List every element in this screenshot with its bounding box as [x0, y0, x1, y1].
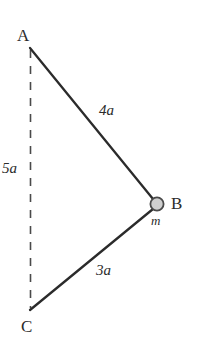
diagram-canvas	[0, 0, 197, 346]
length-label-ab: 4a	[99, 103, 114, 118]
length-label-cb: 3a	[96, 263, 111, 278]
vertex-label-c: C	[21, 318, 32, 335]
rod-line-cb	[30, 209, 153, 310]
vertex-label-b: B	[171, 195, 182, 212]
vertex-label-a: A	[17, 27, 29, 44]
physics-diagram-figure: A B C 4a 3a 5a m	[0, 0, 197, 346]
rod-line-ab	[30, 48, 153, 199]
length-label-ac: 5a	[2, 161, 17, 176]
point-mass-circle	[150, 197, 163, 210]
mass-label: m	[151, 214, 160, 227]
